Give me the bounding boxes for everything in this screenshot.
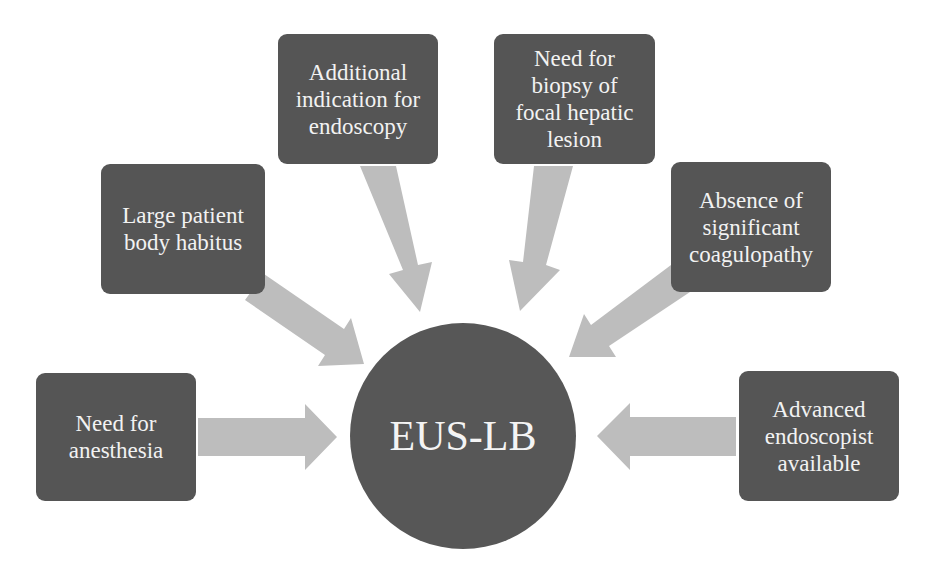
factor-label: Need for anesthesia [69,410,164,464]
factor-label: Absence of significant coagulopathy [689,187,813,268]
hub-circle-eus-lb: EUS-LB [350,323,576,549]
factor-label: Need for biopsy of focal hepatic lesion [515,45,633,153]
factor-box-anesthesia: Need for anesthesia [36,373,196,501]
factor-box-advanced-endoscopist: Advanced endoscopist available [739,371,899,501]
hub-label: EUS-LB [390,412,537,460]
arrow-advanced-endoscopist [597,403,736,470]
factor-box-biopsy-focal-lesion: Need for biopsy of focal hepatic lesion [494,34,655,164]
factor-box-body-habitus: Large patient body habitus [101,164,265,294]
arrow-additional-indication [360,166,432,312]
arrow-biopsy [509,166,573,311]
factor-box-additional-indication: Additional indication for endoscopy [278,34,438,164]
factor-label: Additional indication for endoscopy [296,59,421,140]
factor-label: Large patient body habitus [122,202,244,256]
factor-box-no-coagulopathy: Absence of significant coagulopathy [671,162,831,292]
factor-label: Advanced endoscopist available [765,396,874,477]
arrow-anesthesia [198,404,337,470]
